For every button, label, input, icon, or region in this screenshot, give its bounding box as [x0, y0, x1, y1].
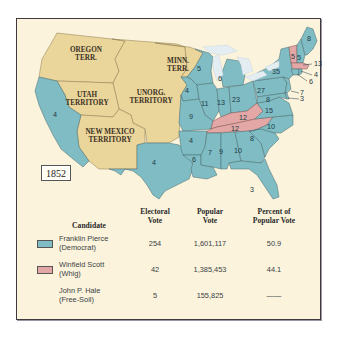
ev-california: 4 [53, 110, 57, 119]
swatch-democrat [37, 240, 53, 248]
ev-iowa: 4 [185, 86, 189, 95]
label-new-mexico: NEW MEXICO [85, 128, 135, 136]
ev-mississippi: 7 [208, 148, 212, 157]
ev-maryland: 8 [266, 95, 270, 104]
ev-arkansas: 4 [189, 136, 193, 145]
label-utah-2: TERRITORY [65, 99, 109, 107]
ev-connecticut: 6 [309, 77, 313, 86]
ev-delaware: 3 [300, 94, 304, 103]
ev-louisiana: 6 [192, 155, 196, 164]
ev-maine: 8 [307, 34, 311, 43]
ev-illinois: 11 [201, 99, 208, 108]
ev-massachusetts: 13 [314, 59, 322, 68]
swatch-whig [37, 266, 53, 274]
candidate-party: (Democrat) [59, 244, 96, 253]
label-oregon: OREGON [70, 46, 103, 54]
header-candidate: Candidate [59, 221, 119, 230]
ev-new-hampshire: 5 [297, 53, 301, 62]
percent-vote: 44.1 [239, 265, 309, 274]
ev-virginia: 15 [265, 106, 273, 115]
ev-north-carolina: 10 [267, 122, 275, 131]
label-unorganized-2: TERRITORY [129, 97, 173, 105]
label-unorganized: UNORG. [137, 89, 166, 97]
ev-missouri: 9 [189, 112, 193, 121]
label-utah: UTAH [77, 91, 98, 99]
popular-vote: 155,825 [185, 291, 235, 300]
ev-georgia: 10 [234, 146, 242, 155]
electoral-vote: 254 [135, 239, 175, 248]
table-row-scott: Winfield Scott (Whig) 42 1,385,453 44.1 [17, 261, 322, 283]
year-label: 1852 [41, 165, 71, 181]
label-minnesota: MINN. [167, 57, 189, 65]
label-oregon-2: TERR. [75, 54, 97, 62]
ev-indiana: 13 [217, 98, 225, 107]
label-new-mexico-2: TERRITORY [88, 136, 132, 144]
state-florida [229, 159, 279, 199]
percent-vote: —— [239, 291, 309, 300]
header-popular-1: Popular [185, 207, 235, 216]
header-electoral-1: Electoral [135, 207, 175, 216]
header-percent-1: Percent of [239, 207, 309, 216]
header-percent-2: Popular Vote [239, 216, 309, 225]
candidate-party: (Whig) [59, 270, 81, 279]
ev-wisconsin: 5 [197, 64, 201, 73]
election-map: OREGON TERR. MINN. TERR. UTAH TERRITORY … [17, 19, 322, 204]
candidate-party: (Free-Soil) [59, 296, 94, 305]
table-row-hale: John P. Hale (Free-Soil) 5 155,825 —— [17, 287, 322, 309]
ev-texas: 4 [152, 158, 156, 167]
election-map-frame: OREGON TERR. MINN. TERR. UTAH TERRITORY … [16, 18, 321, 320]
ev-south-carolina: 8 [250, 134, 254, 143]
label-minnesota-2: TERR. [167, 65, 189, 73]
electoral-vote: 42 [135, 265, 175, 274]
ev-michigan: 6 [218, 74, 222, 83]
ev-florida: 3 [250, 185, 254, 194]
header-electoral-2: Vote [135, 216, 175, 225]
ev-vermont: 5 [291, 52, 295, 61]
ev-pennsylvania: 27 [257, 86, 265, 95]
ev-alabama: 9 [219, 147, 223, 156]
popular-vote: 1,601,117 [185, 239, 235, 248]
percent-vote: 50.9 [239, 239, 309, 248]
state-rhode-island [299, 69, 302, 75]
state-massachusetts [291, 63, 309, 69]
header-popular-2: Vote [185, 216, 235, 225]
ev-tennessee: 12 [231, 124, 239, 133]
table-row-pierce: Franklin Pierce (Democrat) 254 1,601,117… [17, 235, 322, 257]
ev-new-york: 35 [272, 67, 280, 76]
ev-kentucky: 12 [239, 113, 247, 122]
ev-ohio: 23 [232, 95, 240, 104]
electoral-vote: 5 [135, 291, 175, 300]
popular-vote: 1,385,453 [185, 265, 235, 274]
ev-rhode-island: 4 [314, 70, 318, 79]
